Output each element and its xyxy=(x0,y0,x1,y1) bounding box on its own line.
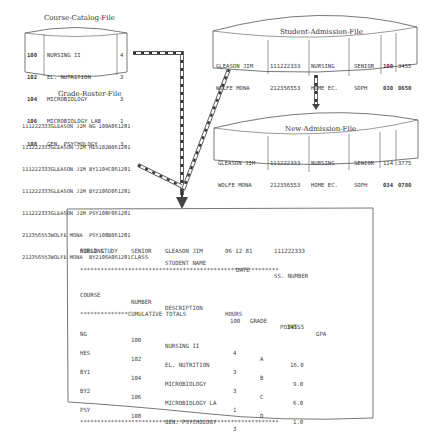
course-hours: 3 xyxy=(233,388,236,394)
course-description: GEN. PSYCHOLOGY xyxy=(165,419,216,425)
student-1-header-labels: FIELD STUDY CLASS STUDENT NAME DATE SS. … xyxy=(80,241,370,254)
new-admission-hours-value: 114 xyxy=(383,160,393,167)
new-admission-field: HOME EC. xyxy=(311,182,338,189)
admission-fields: NURSING HOME EC. xyxy=(311,48,338,100)
grade-report-content: FIELD STUDY CLASS STUDENT NAME DATE SS. … xyxy=(80,216,370,406)
new-admission-points: 3775 0780 xyxy=(398,145,411,197)
student-1-column-labels: COURSE NUMBER DESCRIPTION HOURS GRADE PO… xyxy=(80,286,370,292)
new-admission-ssn: 212356553 xyxy=(270,182,300,189)
catalog-hours: 4 xyxy=(120,52,127,59)
admission-class: SENIOR xyxy=(354,63,374,70)
student-name: GLEASON JIM xyxy=(165,248,203,254)
admission-ssn: 212356553 xyxy=(270,85,300,92)
col-gpa: GPA xyxy=(316,331,326,337)
new-admission-fields: NURSING HOME EC. xyxy=(311,145,338,197)
admission-classes: SENIOR SOPH xyxy=(354,48,374,100)
admission-names: GLEASON JIM WOLFE MONA xyxy=(216,48,253,100)
new-admission-hours: 114 034 xyxy=(383,145,393,197)
new-admission-ssns: 111222333 212356553 xyxy=(270,145,300,197)
roster-to-report-connector xyxy=(138,165,181,186)
admission-field: NURSING xyxy=(311,63,338,70)
course-code: PSY xyxy=(80,407,90,413)
catalog-number: 100 xyxy=(27,52,37,59)
new-admission-hours-value: 034 xyxy=(383,182,393,189)
catalog-description: EL. NUTRITION xyxy=(47,74,101,81)
cumulative-label: **************CUMULATIVE TOTALS xyxy=(80,311,186,317)
admission-ssns: 111222333 212356553 xyxy=(270,48,300,100)
admission-class: SOPH xyxy=(354,85,374,92)
col-course: COURSE xyxy=(80,292,101,298)
roster-record: 111222333GLEASON JIM BY1104C061281 xyxy=(22,166,130,173)
roster-record: 111222333GLEASON JIM HES102B061281 xyxy=(22,144,130,151)
separator: ****************************************… xyxy=(80,419,366,425)
student-field: NURSING xyxy=(80,248,104,254)
admission-hours-value: 100 xyxy=(383,63,393,70)
course-grade: D xyxy=(260,413,263,419)
catalog-number: 102 xyxy=(27,74,37,81)
label-class: CLASS xyxy=(131,254,148,260)
course-row: PSY 108 GEN. PSYCHOLOGY 3 F 0.0 xyxy=(80,400,370,406)
student-date: 06 12 81 xyxy=(225,248,252,254)
course-points: 1.0 xyxy=(293,419,303,425)
course-hours: 1 xyxy=(233,407,236,413)
admission-ssn: 111222333 xyxy=(270,63,300,70)
label-student-name: STUDENT NAME xyxy=(165,260,206,266)
admission-name: GLEASON JIM xyxy=(216,63,253,70)
student-ssn: 111222333 xyxy=(274,248,305,254)
catalog-description: NURSING II xyxy=(47,52,101,59)
new-admission-name: GLEASON JIM xyxy=(218,160,255,167)
new-admission-class: SENIOR xyxy=(354,160,374,167)
course-hours: 3 xyxy=(233,426,236,432)
course-row: BY2 106 MICROBIOLOGY LA 1 D 1.0 xyxy=(80,381,370,387)
roster-record: 111222333GLEASON JIM NG 100A061281 xyxy=(22,123,130,130)
admission-points-value: 3455 xyxy=(398,63,411,70)
course-row: HES 102 EL. NUTRITION 3 B 9.0 xyxy=(80,343,370,349)
student-class: SENIOR xyxy=(131,248,152,254)
new-admission-field: NURSING xyxy=(311,160,338,167)
admission-points: 3455 0650 xyxy=(398,48,411,100)
new-admission-ssn: 111222333 xyxy=(270,160,300,167)
roster-record: 111222333GLEASON JIM BY2106D061281 xyxy=(22,188,130,195)
course-code: BY1 xyxy=(80,369,90,375)
student-admission-title: Student-Admission-File xyxy=(280,28,363,36)
course-hours: 3 xyxy=(233,369,236,375)
admission-hours-value: 030 xyxy=(383,85,393,92)
admission-points-value: 0650 xyxy=(398,85,411,92)
course-number: 108 xyxy=(131,413,141,419)
label-date: DATE xyxy=(236,267,250,273)
course-row: NG 100 NURSING II 4 A 16.0 xyxy=(80,324,370,330)
new-admission-classes: SENIOR SOPH xyxy=(354,145,374,197)
new-admission-title: New-Admission-File xyxy=(285,125,356,133)
student-1-cumulative-row: **************CUMULATIVE TOTALS 100 345.… xyxy=(80,305,370,311)
catalog-hours: 3 xyxy=(120,74,127,81)
course-code: NG xyxy=(80,331,87,337)
new-admission-points-value: 3775 xyxy=(398,160,411,167)
new-admission-name: WOLFE MONA xyxy=(218,182,255,189)
admission-hours: 100 030 xyxy=(383,48,393,100)
course-hours: 4 xyxy=(233,350,236,356)
label-ss-number: SS. NUMBER xyxy=(274,273,308,279)
grade-roster-title: Grade-Roster-File xyxy=(58,90,121,98)
admission-field: HOME EC. xyxy=(311,85,338,92)
new-admission-class: SOPH xyxy=(354,182,374,189)
course-row: BY1 104 MICROBIOLOGY 3 C 6.0 xyxy=(80,362,370,368)
course-code: BY2 xyxy=(80,388,90,394)
catalog-number: 104 xyxy=(27,96,37,103)
separator: ****************************************… xyxy=(80,267,366,273)
course-catalog-title: Course-Catalog-File xyxy=(44,14,115,22)
new-admission-points-value: 0780 xyxy=(398,182,411,189)
course-code: HES xyxy=(80,350,90,356)
new-admission-names: GLEASON JIM WOLFE MONA xyxy=(218,145,255,197)
admission-name: WOLFE MONA xyxy=(216,85,253,92)
